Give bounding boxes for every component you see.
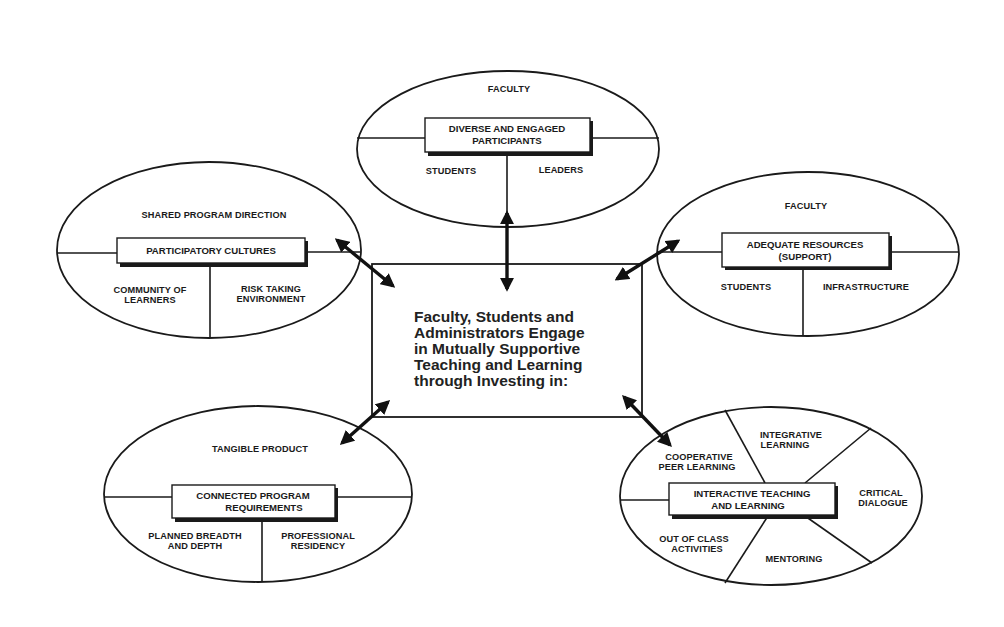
top-title-line-2: PARTICIPANTS <box>472 135 542 146</box>
bottom-left-label-planned-line-2: AND DEPTH <box>168 541 223 551</box>
segment-mentoring: MENTORING <box>766 554 823 564</box>
left-label-community-line-2: LEARNERS <box>124 295 175 305</box>
arrow-center-right <box>617 241 678 279</box>
segment-critical-line-2: DIALOGUE <box>858 498 907 508</box>
bottom-right-divider-1 <box>725 410 765 483</box>
right-label-students: STUDENTS <box>721 282 771 292</box>
segment-cooperative-line-1: COOPERATIVE <box>665 452 732 462</box>
center-text-line-4: Teaching and Learning <box>414 356 583 373</box>
bottom-right-title-line-2: AND LEARNING <box>711 500 785 511</box>
arrow-center-bottom-right <box>624 397 670 445</box>
top-label-faculty: FACULTY <box>488 84 530 94</box>
right-label-infrastructure: INFRASTRUCTURE <box>823 282 909 292</box>
segment-cooperative-line-2: PEER LEARNING <box>659 462 736 472</box>
left-label-risk-line-2: ENVIRONMENT <box>237 294 306 304</box>
top-label-leaders: LEADERS <box>539 165 584 175</box>
center-text-line-2: Administrators Engage <box>414 324 585 341</box>
right-title-line-1: ADEQUATE RESOURCES <box>747 239 864 250</box>
segment-critical-line-1: CRITICAL <box>859 488 903 498</box>
bottom-left-label-residency-line-2: RESIDENCY <box>291 541 346 551</box>
right-title-line-2: (SUPPORT) <box>779 251 832 262</box>
segment-out-of-class-line-2: ACTIVITIES <box>671 544 723 554</box>
bottom-left-label-planned-line-1: PLANNED BREADTH <box>148 531 242 541</box>
node-interactive-teaching: INTERACTIVE TEACHING AND LEARNING COOPER… <box>620 407 922 585</box>
segment-integrative-line-2: LEARNING <box>761 440 810 450</box>
left-label-community-line-1: COMMUNITY OF <box>114 285 187 295</box>
right-label-faculty: FACULTY <box>785 201 827 211</box>
bottom-right-divider-4 <box>725 516 768 583</box>
bottom-left-label-residency-line-1: PROFESSIONAL <box>281 531 355 541</box>
center-text-line-5: through Investing in: <box>414 372 568 389</box>
bottom-left-title-line-1: CONNECTED PROGRAM <box>196 490 310 501</box>
left-label-risk-line-1: RISK TAKING <box>241 284 301 294</box>
top-label-students: STUDENTS <box>426 166 476 176</box>
arrow-center-left <box>337 240 393 286</box>
node-connected-program: CONNECTED PROGRAM REQUIREMENTS TANGIBLE … <box>104 406 412 582</box>
bottom-left-title-line-2: REQUIREMENTS <box>225 502 303 513</box>
diagram-canvas: Faculty, Students and Administrators Eng… <box>0 0 1004 627</box>
bottom-left-label-tangible: TANGIBLE PRODUCT <box>212 444 308 454</box>
top-title-line-1: DIVERSE AND ENGAGED <box>449 123 565 134</box>
bottom-right-title-line-1: INTERACTIVE TEACHING <box>694 488 811 499</box>
node-adequate-resources: ADEQUATE RESOURCES (SUPPORT) FACULTY STU… <box>657 172 959 336</box>
left-title-line-1: PARTICIPATORY CULTURES <box>146 245 276 256</box>
center-text-line-3: in Mutually Supportive <box>414 340 581 357</box>
segment-integrative-line-1: INTEGRATIVE <box>760 430 822 440</box>
node-participatory-cultures: PARTICIPATORY CULTURES SHARED PROGRAM DI… <box>57 162 361 338</box>
left-label-shared-direction: SHARED PROGRAM DIRECTION <box>142 210 287 220</box>
segment-out-of-class-line-1: OUT OF CLASS <box>659 534 729 544</box>
center-text-line-1: Faculty, Students and <box>414 308 574 325</box>
node-diverse-participants: DIVERSE AND ENGAGED PARTICIPANTS FACULTY… <box>357 71 659 227</box>
